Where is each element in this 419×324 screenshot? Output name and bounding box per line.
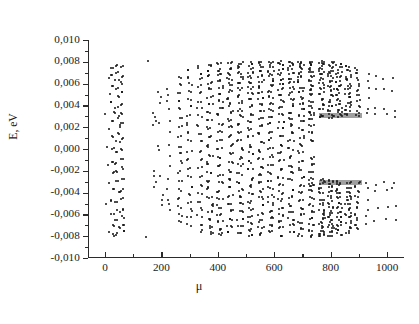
data-point bbox=[218, 190, 220, 192]
data-point bbox=[271, 131, 273, 133]
data-point bbox=[167, 94, 169, 96]
data-point bbox=[327, 75, 329, 77]
data-point bbox=[114, 107, 116, 109]
data-point bbox=[153, 170, 155, 172]
data-point bbox=[201, 185, 203, 187]
data-point bbox=[180, 135, 182, 137]
data-point bbox=[207, 211, 209, 213]
data-point bbox=[271, 230, 273, 232]
data-point bbox=[267, 196, 269, 198]
data-point bbox=[340, 84, 342, 86]
data-point bbox=[289, 87, 291, 89]
data-point bbox=[349, 70, 351, 72]
data-point bbox=[179, 170, 181, 172]
data-point bbox=[277, 127, 279, 129]
data-point bbox=[178, 180, 180, 182]
data-point bbox=[365, 182, 367, 184]
data-point bbox=[111, 120, 113, 122]
data-point bbox=[111, 85, 113, 87]
data-point bbox=[278, 190, 280, 192]
data-point bbox=[271, 116, 273, 118]
data-point bbox=[367, 199, 369, 201]
data-point bbox=[302, 90, 304, 92]
data-point bbox=[292, 105, 294, 107]
data-point bbox=[269, 147, 271, 149]
data-point bbox=[267, 186, 269, 188]
data-point bbox=[336, 76, 338, 78]
data-point bbox=[108, 182, 110, 184]
data-point bbox=[179, 117, 181, 119]
data-point bbox=[237, 110, 239, 112]
data-point bbox=[155, 181, 157, 183]
data-point bbox=[177, 172, 179, 174]
data-point bbox=[252, 114, 254, 116]
data-point bbox=[291, 196, 293, 198]
data-point bbox=[218, 87, 220, 89]
y-tick-label: -0,008 bbox=[51, 229, 81, 241]
data-point bbox=[258, 81, 260, 83]
data-point bbox=[201, 166, 203, 168]
data-point bbox=[181, 125, 183, 127]
data-point bbox=[201, 116, 203, 118]
data-point bbox=[268, 96, 270, 98]
data-point bbox=[261, 91, 263, 93]
data-point bbox=[186, 223, 188, 225]
data-point bbox=[169, 120, 171, 122]
data-point bbox=[196, 124, 198, 126]
data-point bbox=[302, 151, 304, 153]
data-point bbox=[217, 220, 219, 222]
data-point bbox=[232, 143, 234, 145]
data-point bbox=[122, 122, 124, 124]
data-point bbox=[229, 218, 231, 220]
data-point bbox=[120, 190, 122, 192]
data-point bbox=[178, 213, 180, 215]
data-point bbox=[230, 203, 232, 205]
data-point bbox=[248, 65, 250, 67]
data-point bbox=[260, 181, 262, 183]
data-point bbox=[393, 182, 395, 184]
data-point bbox=[226, 225, 228, 227]
data-point bbox=[115, 72, 117, 74]
data-point bbox=[257, 226, 259, 228]
data-point bbox=[349, 192, 351, 194]
data-point bbox=[303, 64, 305, 66]
data-point bbox=[323, 91, 325, 93]
data-point bbox=[346, 69, 348, 71]
data-point bbox=[162, 194, 164, 196]
data-point bbox=[331, 80, 333, 82]
data-point bbox=[191, 186, 193, 188]
data-point bbox=[299, 185, 301, 187]
data-point bbox=[365, 223, 367, 225]
data-point bbox=[230, 134, 232, 136]
data-point bbox=[228, 91, 230, 93]
data-point bbox=[177, 205, 179, 207]
data-point bbox=[221, 131, 223, 133]
data-point bbox=[302, 129, 304, 131]
data-point bbox=[320, 187, 322, 189]
data-point bbox=[282, 192, 284, 194]
dense-band bbox=[319, 113, 361, 118]
data-point bbox=[335, 104, 337, 106]
data-point bbox=[251, 92, 253, 94]
data-point bbox=[339, 103, 341, 105]
data-point bbox=[178, 126, 180, 128]
data-point bbox=[341, 107, 343, 109]
data-point bbox=[303, 115, 305, 117]
x-tick-label: 1000 bbox=[364, 261, 410, 273]
data-point bbox=[329, 101, 331, 103]
data-point bbox=[206, 97, 208, 99]
data-point bbox=[122, 208, 124, 210]
data-point bbox=[271, 85, 273, 87]
data-point bbox=[218, 181, 220, 183]
data-point bbox=[242, 163, 244, 165]
data-point bbox=[178, 100, 180, 102]
data-point bbox=[269, 187, 271, 189]
data-point bbox=[209, 218, 211, 220]
data-point bbox=[239, 89, 241, 91]
data-point bbox=[311, 190, 313, 192]
data-point bbox=[346, 196, 348, 198]
data-point bbox=[279, 74, 281, 76]
data-point bbox=[207, 75, 209, 77]
data-point bbox=[261, 74, 263, 76]
data-point bbox=[169, 155, 171, 157]
